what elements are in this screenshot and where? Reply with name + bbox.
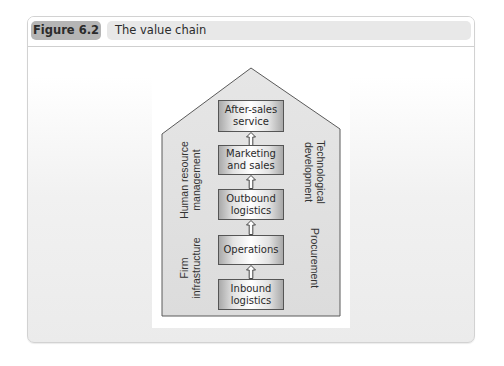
support-procurement: Procurement [302,203,328,313]
flow-arrow-icon [246,265,256,279]
flow-arrow-icon [246,220,256,235]
flow-arrow-icon [246,132,256,146]
flow-arrow-icon [246,175,256,189]
activity-after-sales-service: After-sales service [218,100,284,132]
activity-operations: Operations [218,235,284,265]
activity-marketing-and-sales: Marketing and sales [218,145,284,175]
activity-inbound-logistics: Inbound logistics [218,279,284,310]
support-firm-infrastructure: Firm infrastructure [177,213,203,323]
activity-outbound-logistics: Outbound logistics [218,189,284,220]
